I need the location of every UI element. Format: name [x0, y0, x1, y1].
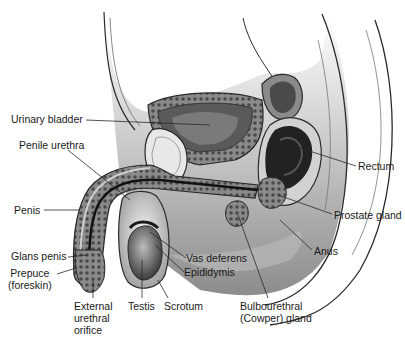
label-rectum: Rectum [358, 160, 394, 172]
label-urinary-bladder: Urinary bladder [11, 113, 83, 125]
label-prepuce: Prepuce (foreskin) [8, 267, 52, 291]
label-epididymis: Epididymis [184, 266, 235, 278]
label-anus: Anus [314, 245, 338, 257]
leader-scrotum [158, 280, 168, 298]
prostate-shape [258, 177, 286, 208]
label-scrotum: Scrotum [164, 300, 203, 312]
testis-shape [128, 226, 162, 280]
label-penis: Penis [14, 204, 40, 216]
bulbourethral-gland-shape [226, 201, 249, 226]
leader-prepuce [57, 268, 76, 274]
label-vas-deferens: Vas deferens [186, 252, 247, 264]
label-testis: Testis [128, 300, 155, 312]
label-glans-penis: Glans penis [11, 250, 66, 262]
anatomy-diagram: Urinary bladder Penile urethra Penis Gla… [0, 0, 405, 341]
label-external-urethral-orifice: External urethral orifice [74, 300, 113, 336]
label-prostate-gland: Prostate gland [334, 209, 402, 221]
label-penile-urethra: Penile urethra [19, 139, 84, 151]
label-bulbourethral-gland: Bulbourethral (Cowper) gland [240, 300, 312, 324]
anatomy-illustration [0, 0, 405, 341]
glans-shape [75, 250, 105, 292]
